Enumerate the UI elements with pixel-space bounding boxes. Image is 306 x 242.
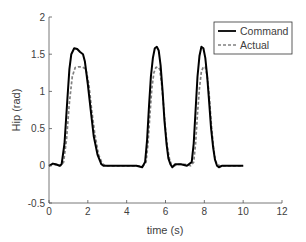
y-tick-label: -0.5 xyxy=(28,198,46,209)
legend-label-command: Command xyxy=(240,25,289,37)
y-tick-label: 1 xyxy=(39,86,45,97)
y-axis-label: Hip (rad) xyxy=(10,89,22,132)
y-tick-label: 2 xyxy=(39,12,45,23)
y-tick-label: 1.5 xyxy=(31,49,45,60)
x-tick-label: 2 xyxy=(85,206,91,217)
legend-label-actual: Actual xyxy=(240,39,269,51)
x-tick-label: 0 xyxy=(46,206,52,217)
series-line-command xyxy=(49,47,243,168)
x-tick-label: 4 xyxy=(124,206,130,217)
y-tick-label: 0 xyxy=(39,160,45,171)
x-tick-label: 10 xyxy=(238,206,250,217)
x-tick-label: 6 xyxy=(163,206,169,217)
line-chart: 024681012-0.500.511.52 time (s) Hip (rad… xyxy=(0,0,306,242)
chart-container: 024681012-0.500.511.52 time (s) Hip (rad… xyxy=(0,0,306,242)
y-tick-label: 0.5 xyxy=(31,123,45,134)
x-axis-label: time (s) xyxy=(147,224,184,236)
x-tick-label: 8 xyxy=(202,206,208,217)
plot-area xyxy=(49,47,243,168)
x-tick-label: 12 xyxy=(276,206,288,217)
legend: Command Actual xyxy=(214,22,292,54)
